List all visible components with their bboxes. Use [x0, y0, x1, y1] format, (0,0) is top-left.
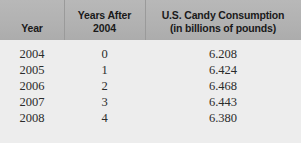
column-header-years-after-line2: 2004: [93, 22, 116, 35]
cell-years-after: 1: [64, 62, 145, 78]
candy-consumption-table: Year Years After 2004 U.S. Candy Consump…: [0, 0, 301, 143]
table-header-band: Year Years After 2004 U.S. Candy Consump…: [0, 0, 301, 40]
cell-consumption: 6.424: [145, 62, 301, 78]
column-header-years-after-line1: Years After: [78, 9, 131, 22]
cell-consumption: 6.208: [145, 46, 301, 62]
column-header-us-candy-consumption: U.S. Candy Consumption (in billions of p…: [145, 0, 301, 40]
table-body: 2004 0 6.208 2005 1 6.424 2006 2 6.468 2…: [0, 40, 301, 143]
cell-years-after: 2: [64, 78, 145, 94]
table-row: 2008 4 6.380: [0, 110, 301, 126]
cell-year: 2005: [0, 62, 64, 78]
cell-consumption: 6.443: [145, 94, 301, 110]
column-header-year: Year: [0, 0, 64, 40]
column-header-years-after-2004: Years After 2004: [64, 0, 145, 40]
cell-years-after: 3: [64, 94, 145, 110]
cell-years-after: 4: [64, 110, 145, 126]
column-header-consumption-line2: (in billions of pounds): [170, 22, 276, 35]
cell-consumption: 6.380: [145, 110, 301, 126]
cell-year: 2008: [0, 110, 64, 126]
cell-year: 2004: [0, 46, 64, 62]
table-row: 2005 1 6.424: [0, 62, 301, 78]
table-row: 2007 3 6.443: [0, 94, 301, 110]
table-row: 2004 0 6.208: [0, 46, 301, 62]
cell-years-after: 0: [64, 46, 145, 62]
column-header-consumption-line1: U.S. Candy Consumption: [162, 9, 285, 22]
cell-year: 2006: [0, 78, 64, 94]
cell-consumption: 6.468: [145, 78, 301, 94]
table-row: 2006 2 6.468: [0, 78, 301, 94]
cell-year: 2007: [0, 94, 64, 110]
column-header-year-line1: Year: [21, 22, 43, 35]
